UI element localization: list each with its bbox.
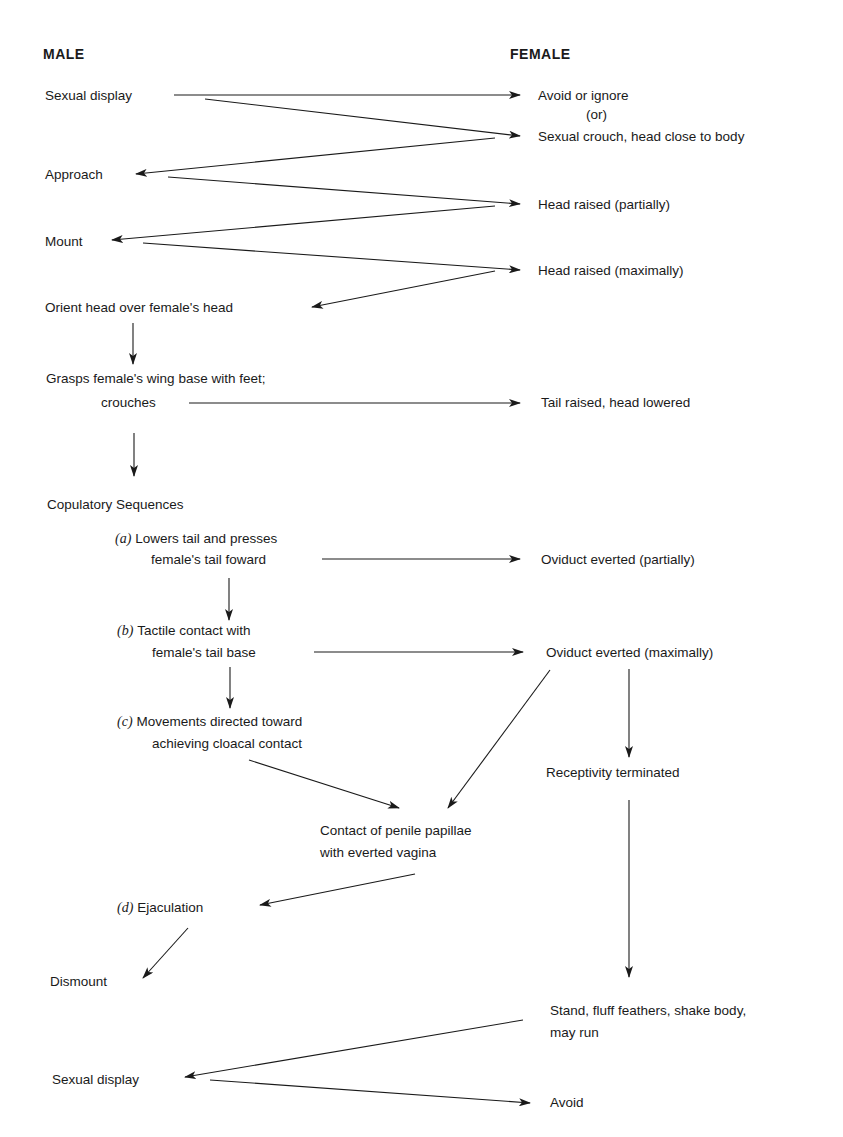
female-avoid-or-ignore: Avoid or ignore bbox=[538, 87, 629, 104]
male-approach: Approach bbox=[45, 166, 103, 183]
step-c-tag: (c) bbox=[117, 714, 133, 729]
flow-arrows bbox=[0, 0, 843, 1137]
female-stand-line2: may run bbox=[550, 1024, 599, 1041]
male-grasps-line1: Grasps female's wing base with feet; bbox=[46, 370, 265, 387]
step-a-tag: (a) bbox=[115, 531, 131, 546]
female-oviduct-partially: Oviduct everted (partially) bbox=[541, 551, 695, 568]
male-dismount: Dismount bbox=[50, 973, 107, 990]
female-head-raised-maximally: Head raised (maximally) bbox=[538, 262, 684, 279]
step-a-line2: female's tail foward bbox=[151, 551, 266, 568]
male-sexual-display: Sexual display bbox=[45, 87, 132, 104]
female-receptivity-terminated: Receptivity terminated bbox=[546, 764, 680, 781]
female-or: (or) bbox=[586, 106, 607, 123]
step-b-tag: (b) bbox=[117, 623, 133, 638]
step-c-line2: achieving cloacal contact bbox=[152, 735, 302, 752]
contact-line2: with everted vagina bbox=[320, 844, 436, 861]
step-a-line1: (a)Lowers tail and presses bbox=[115, 530, 277, 547]
male-mount: Mount bbox=[45, 233, 83, 250]
female-column-header: FEMALE bbox=[510, 46, 571, 62]
female-avoid: Avoid bbox=[550, 1094, 584, 1111]
female-tail-raised: Tail raised, head lowered bbox=[541, 394, 690, 411]
female-head-raised-partially: Head raised (partially) bbox=[538, 196, 670, 213]
male-sexual-display-2: Sexual display bbox=[52, 1071, 139, 1088]
contact-line1: Contact of penile papillae bbox=[320, 822, 472, 839]
step-d-tag: (d) bbox=[117, 900, 133, 915]
male-grasps-line2: crouches bbox=[101, 394, 156, 411]
step-d-ejaculation: (d)Ejaculation bbox=[117, 899, 203, 916]
female-stand-line1: Stand, fluff feathers, shake body, bbox=[550, 1002, 746, 1019]
female-oviduct-maximally: Oviduct everted (maximally) bbox=[546, 644, 713, 661]
female-sexual-crouch: Sexual crouch, head close to body bbox=[538, 128, 744, 145]
step-b-line2: female's tail base bbox=[152, 644, 256, 661]
step-c-line1: (c)Movements directed toward bbox=[117, 713, 302, 730]
male-column-header: MALE bbox=[43, 46, 85, 62]
step-b-line1: (b)Tactile contact with bbox=[117, 622, 251, 639]
copulatory-sequences-heading: Copulatory Sequences bbox=[47, 496, 184, 513]
male-orient-head: Orient head over female's head bbox=[45, 299, 233, 316]
